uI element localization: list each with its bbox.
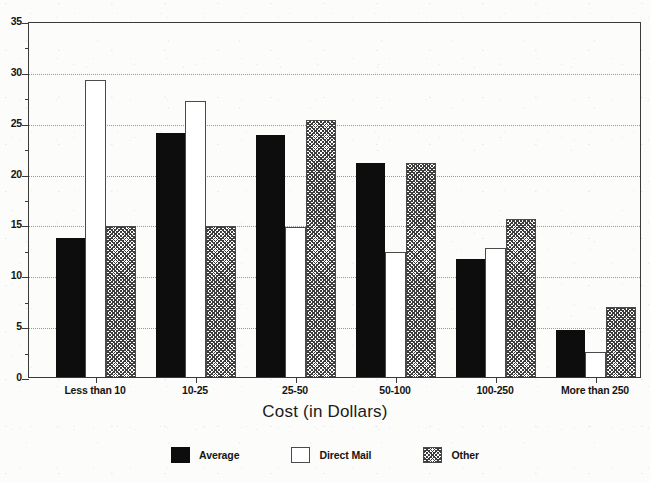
bar-other[interactable] xyxy=(406,163,436,377)
y-axis-tick xyxy=(22,277,29,278)
legend-item-other[interactable]: Other xyxy=(423,447,479,463)
y-axis-tick-label: 15 xyxy=(0,218,22,230)
bar-direct-mail[interactable] xyxy=(85,80,106,377)
hatched-gray-swatch-icon xyxy=(423,447,442,463)
bar-other[interactable] xyxy=(606,307,636,377)
y-axis-tick xyxy=(22,23,29,24)
grouped-bar-chart: 05101520253035 Less than 1010-2525-5050-… xyxy=(0,0,650,482)
legend-label-average: Average xyxy=(199,449,239,461)
x-axis-tick xyxy=(496,377,497,383)
bar-direct-mail[interactable] xyxy=(585,352,606,377)
plot-area xyxy=(28,22,641,378)
x-axis-category-label: More than 250 xyxy=(535,384,650,396)
bar-average[interactable] xyxy=(256,135,285,377)
gridline xyxy=(29,74,640,75)
y-axis-minor-tick xyxy=(25,201,29,202)
bar-direct-mail[interactable] xyxy=(285,227,306,377)
x-axis-tick xyxy=(296,377,297,383)
y-axis-tick xyxy=(22,125,29,126)
chart-legend: Average Direct Mail Other xyxy=(0,447,650,463)
x-axis-tick xyxy=(96,377,97,383)
y-axis-minor-tick xyxy=(25,48,29,49)
y-axis-tick-label: 0 xyxy=(0,371,22,383)
bar-average[interactable] xyxy=(456,259,485,377)
y-axis-tick-label: 10 xyxy=(0,269,22,281)
bar-direct-mail[interactable] xyxy=(485,248,506,377)
y-axis-tick xyxy=(22,74,29,75)
y-axis-tick-label: 5 xyxy=(0,320,22,332)
legend-label-other: Other xyxy=(451,449,479,461)
y-axis-tick xyxy=(22,379,29,380)
y-axis-tick-label: 25 xyxy=(0,117,22,129)
y-axis-minor-tick xyxy=(25,252,29,253)
y-axis-minor-tick xyxy=(25,303,29,304)
y-axis-tick xyxy=(22,176,29,177)
bar-direct-mail[interactable] xyxy=(385,252,406,377)
x-axis-title: Cost (in Dollars) xyxy=(0,402,650,422)
x-axis-tick xyxy=(196,377,197,383)
bar-average[interactable] xyxy=(556,330,585,377)
bar-other[interactable] xyxy=(206,226,236,377)
y-axis-minor-tick xyxy=(25,150,29,151)
legend-item-average[interactable]: Average xyxy=(171,447,239,463)
bar-other[interactable] xyxy=(106,226,136,377)
solid-black-swatch-icon xyxy=(171,447,190,463)
x-axis-tick xyxy=(596,377,597,383)
bar-average[interactable] xyxy=(156,133,185,377)
legend-item-direct-mail[interactable]: Direct Mail xyxy=(291,447,371,463)
y-axis-tick xyxy=(22,226,29,227)
bar-other[interactable] xyxy=(506,219,536,377)
outline-white-swatch-icon xyxy=(291,447,310,463)
y-axis-tick-label: 35 xyxy=(0,15,22,27)
y-axis-minor-tick xyxy=(25,354,29,355)
y-axis-tick-label: 20 xyxy=(0,168,22,180)
y-axis-tick xyxy=(22,328,29,329)
x-axis-tick xyxy=(396,377,397,383)
bar-direct-mail[interactable] xyxy=(185,101,206,377)
bar-average[interactable] xyxy=(56,238,85,377)
y-axis-minor-tick xyxy=(25,99,29,100)
y-axis-tick-label: 30 xyxy=(0,66,22,78)
bar-average[interactable] xyxy=(356,163,385,377)
bar-other[interactable] xyxy=(306,120,336,377)
legend-label-direct-mail: Direct Mail xyxy=(319,449,371,461)
